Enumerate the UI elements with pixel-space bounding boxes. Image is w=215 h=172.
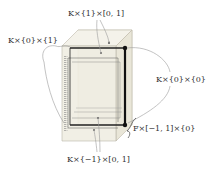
corner-dot-top [123,46,127,50]
product-box-diagram: K×{1}×[0, 1] K×{0}×{1} K×{0}×{0} F×[−1, … [0,0,215,172]
label-left: K×{0}×{1} [8,36,58,45]
label-top: K×{1}×[0, 1] [68,9,124,18]
corner-dot-bottom [123,123,127,127]
label-right: K×{0}×{0} [156,75,206,84]
label-bottom: K×{−1}×[0, 1] [67,155,130,164]
label-bottom-right: F×[−1, 1]×{0} [133,124,195,133]
